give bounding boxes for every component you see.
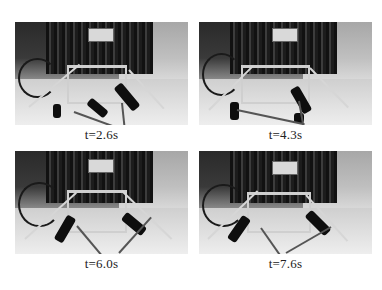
robot-screen (272, 28, 298, 41)
time-label: t=7.6s (199, 256, 372, 272)
photo-panel-t7-6 (199, 151, 372, 254)
photo-panel-t4-3 (199, 22, 372, 125)
robot-frame (247, 192, 311, 233)
robot-cable (18, 58, 57, 98)
robot-screen (88, 159, 114, 172)
robot-cable (202, 53, 241, 96)
robot-leg (53, 104, 61, 118)
robot-cable (18, 182, 60, 227)
photo-panel-t6-0 (15, 151, 188, 254)
time-label: t=6.0s (15, 256, 188, 272)
time-label: t=2.6s (15, 127, 188, 143)
photo-panel-t2-6 (15, 22, 188, 125)
robot-screen (88, 28, 114, 41)
robot-screen (272, 161, 298, 174)
time-label: t=4.3s (199, 127, 372, 143)
